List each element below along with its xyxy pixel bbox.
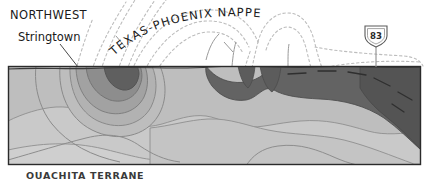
geologic-cross-section-figure: 83 TEXAS-PHOENIX NAPPE NORTHWEST Stringt… (0, 0, 428, 179)
stringtown-leader-line (60, 44, 78, 67)
label-stringtown: Stringtown (18, 30, 81, 44)
cross-section-svg: 83 TEXAS-PHOENIX NAPPE (0, 0, 428, 179)
arch-internal-traces (206, 34, 289, 66)
shield-route-number: 83 (370, 31, 382, 41)
label-bottom-caption: OUACHITA TERRANE (26, 170, 144, 179)
section-body (8, 66, 421, 166)
label-northwest: NORTHWEST (10, 8, 87, 22)
